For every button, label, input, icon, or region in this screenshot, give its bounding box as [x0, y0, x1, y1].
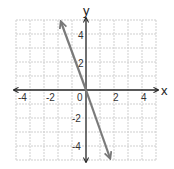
coordinate-graph: x y 0 -4 -2 2 4 4 2 -2 -4 [0, 0, 174, 169]
y-tick: -4 [72, 141, 81, 152]
y-tick: 2 [78, 58, 84, 69]
x-tick: 2 [113, 92, 119, 103]
y-tick: -2 [72, 113, 81, 124]
y-axis-label: y [83, 3, 90, 18]
origin-label: 0 [77, 92, 83, 103]
x-tick: -2 [46, 92, 55, 103]
y-tick: 4 [78, 30, 84, 41]
x-axis-label: x [161, 83, 168, 98]
x-tick: -4 [18, 92, 27, 103]
x-tick: 4 [141, 92, 147, 103]
